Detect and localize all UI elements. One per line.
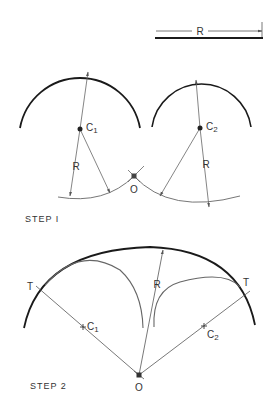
- step1-title: STEP I: [25, 214, 59, 224]
- center-point-c2: [198, 126, 203, 131]
- lower-arc-left: [58, 176, 134, 199]
- dimension-label: R: [196, 26, 203, 37]
- radius-c1-diag: [80, 129, 110, 193]
- step1-figure: C1 C2 R R O STEP I: [20, 72, 251, 224]
- tangent-arc: [24, 247, 255, 328]
- label-t-right: T: [243, 277, 249, 288]
- radius-line-step2: [139, 250, 163, 375]
- step2-figure: T T C1 C2 R O STEP 2: [24, 247, 255, 393]
- lower-arc-right: [134, 176, 240, 202]
- label-radius-right: R: [202, 159, 209, 170]
- radius-c1-up: [80, 72, 88, 129]
- center-point-o: [137, 373, 142, 378]
- tangent-arc-construction-diagram: R C1 C2 R R O STEP I: [0, 0, 272, 404]
- label-radius-step2: R: [153, 279, 160, 290]
- label-o-step2: O: [135, 382, 143, 393]
- label-o: O: [130, 184, 138, 195]
- label-t-left: T: [27, 281, 33, 292]
- arc-c2: [152, 84, 251, 127]
- radius-dimension: R: [155, 22, 263, 38]
- inner-arc-c2: [154, 277, 240, 327]
- arc-c1: [20, 78, 140, 128]
- line-o-t-right: [139, 291, 250, 375]
- step2-title: STEP 2: [30, 381, 67, 391]
- radius-c2-up: [196, 80, 200, 128]
- label-c1: C1: [86, 122, 98, 135]
- intersection-point-o: [132, 174, 137, 179]
- label-c2: C2: [206, 121, 218, 134]
- radius-c2-diag: [160, 128, 200, 196]
- label-radius-left: R: [72, 161, 79, 172]
- center-point-c1: [78, 127, 83, 132]
- label-c2-step2: C2: [207, 329, 219, 342]
